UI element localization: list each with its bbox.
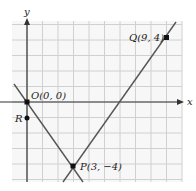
point-Q-label: Q(9, 4)	[129, 32, 164, 43]
y-axis-label: y	[23, 6, 30, 17]
x-axis-label: x	[187, 96, 193, 107]
coordinate-diagram: x y O(0, 0) Q(9, 4) P(3, −4) R	[0, 0, 196, 191]
point-Q: Q(9, 4)	[129, 32, 169, 43]
point-R-label: R	[14, 113, 23, 124]
point-P-label: P(3, −4)	[79, 161, 122, 172]
point-O-label: O(0, 0)	[31, 90, 66, 101]
